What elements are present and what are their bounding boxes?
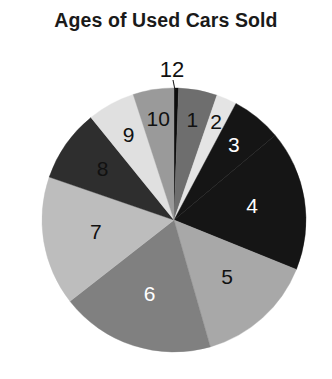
slice-label-2: 2 — [210, 110, 222, 133]
slice-label-7: 7 — [90, 220, 102, 243]
slice-label-6: 6 — [144, 282, 156, 305]
slice-label-3: 3 — [228, 133, 240, 156]
slice-label-8: 8 — [97, 157, 109, 180]
slice-label-12: 12 — [160, 57, 184, 82]
slice-label-10: 10 — [147, 107, 170, 130]
callout-group: 12 — [160, 57, 184, 90]
slice-label-5: 5 — [221, 265, 233, 288]
chart-figure: Ages of Used Cars Sold 12 12345678910 — [0, 0, 332, 379]
pie-chart-svg: 12 12345678910 — [0, 0, 332, 379]
slice-label-9: 9 — [123, 123, 135, 146]
slice-label-1: 1 — [186, 108, 198, 131]
slice-label-4: 4 — [246, 194, 258, 217]
pie-slices-group — [42, 88, 306, 352]
pie-chart: 12 12345678910 — [0, 0, 332, 379]
